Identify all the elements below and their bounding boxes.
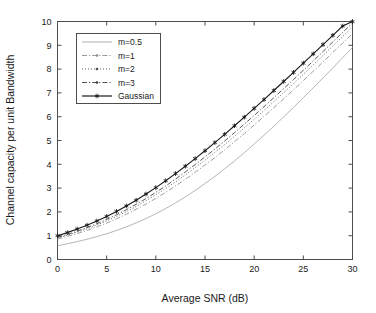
- y-tick-label: 9: [46, 41, 51, 51]
- y-tick-label: 5: [46, 136, 51, 146]
- x-tick-label: 10: [151, 264, 161, 274]
- y-tick-label: 4: [46, 160, 51, 170]
- y-tick-label: 3: [46, 183, 51, 193]
- x-tick-label: 15: [200, 264, 210, 274]
- y-tick-label: 2: [46, 207, 51, 217]
- legend-label: Gaussian: [118, 91, 154, 101]
- y-tick-label: 7: [46, 88, 51, 98]
- legend-label: m=2: [118, 64, 135, 74]
- y-tick-label: 1: [46, 231, 51, 241]
- x-tick-label: 5: [104, 264, 109, 274]
- x-axis-label: Average SNR (dB): [162, 292, 249, 304]
- chart-legend: m=0.5m=1m=2m=3Gaussian: [77, 34, 161, 104]
- y-axis-label: Channel capacity per unit Bandwidth: [4, 55, 16, 226]
- x-tick-label: 0: [55, 264, 60, 274]
- y-tick-label: 0: [46, 255, 51, 265]
- chart-plot: 051015202530 012345678910 Average SNR (d…: [0, 0, 376, 313]
- figure-canvas: 051015202530 012345678910 Average SNR (d…: [0, 0, 376, 313]
- x-tick-label: 25: [298, 264, 308, 274]
- legend-label: m=1: [118, 51, 135, 61]
- y-tick-label: 10: [41, 17, 51, 27]
- legend-label: m=3: [118, 78, 135, 88]
- x-tick-label: 30: [347, 264, 357, 274]
- legend-label: m=0.5: [118, 37, 142, 47]
- x-tick-label: 20: [249, 264, 259, 274]
- y-tick-label: 6: [46, 112, 51, 122]
- y-tick-label: 8: [46, 64, 51, 74]
